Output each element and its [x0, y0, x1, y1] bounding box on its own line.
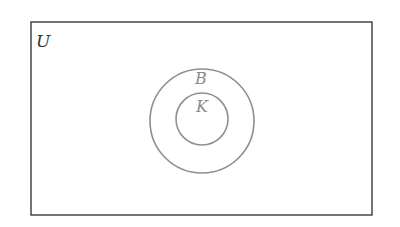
set-b-label: B [194, 69, 207, 88]
universe-label: U [36, 31, 51, 51]
venn-diagram-svg: U B K [0, 0, 400, 227]
universe-rectangle [31, 22, 372, 215]
set-k-label: K [195, 97, 209, 116]
venn-diagram: U B K [0, 0, 400, 227]
